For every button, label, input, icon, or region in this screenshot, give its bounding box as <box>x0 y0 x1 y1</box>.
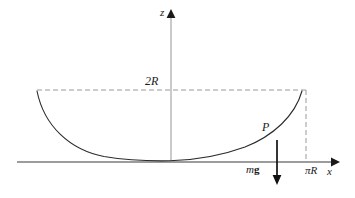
diagram-canvas <box>0 0 355 198</box>
gravity-force-arrowhead <box>273 175 282 185</box>
gravity-force-label: mg <box>246 164 259 175</box>
gravity-accel-symbol: g <box>254 163 260 175</box>
physics-figure: z x 2R P mg πR <box>0 0 355 198</box>
pir-label: πR <box>305 165 317 176</box>
height-2r-label: 2R <box>145 75 158 87</box>
x-axis-arrowhead <box>331 158 340 167</box>
x-axis-label: x <box>327 166 332 177</box>
z-axis-arrowhead <box>167 9 176 18</box>
z-axis-label: z <box>160 7 164 18</box>
gravity-mass-symbol: m <box>246 163 254 175</box>
point-p-label: P <box>262 121 269 133</box>
